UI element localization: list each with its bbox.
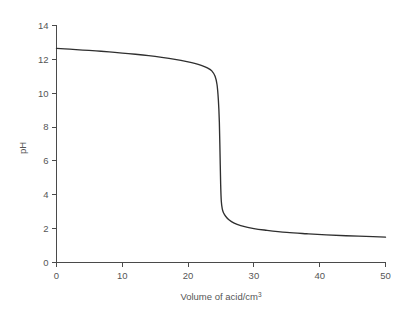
y-tick-label: 2: [43, 223, 48, 234]
x-tick-label: 30: [249, 270, 260, 281]
chart-background: [0, 0, 406, 315]
y-tick-label: 4: [43, 189, 48, 200]
x-tick-label: 0: [54, 270, 59, 281]
y-axis-title: pH: [17, 142, 28, 154]
y-tick-label: 10: [38, 88, 49, 99]
y-tick-label: 12: [38, 54, 49, 65]
x-tick-label: 10: [117, 270, 128, 281]
x-axis-title-superscript: 3: [258, 291, 262, 298]
y-tick-label: 14: [38, 20, 49, 31]
x-tick-label: 20: [183, 270, 194, 281]
x-axis-title: Volume of acid/cm3: [180, 291, 262, 303]
ph-titration-chart: 01020304050 02468101214 Volume of acid/c…: [0, 0, 406, 315]
x-tick-label: 40: [314, 270, 325, 281]
x-axis-title-base: Volume of acid/cm: [180, 291, 258, 302]
chart-svg: 01020304050 02468101214 Volume of acid/c…: [0, 0, 406, 315]
y-tick-label: 6: [43, 155, 48, 166]
y-tick-label: 0: [43, 257, 48, 268]
x-tick-label: 50: [380, 270, 391, 281]
y-tick-label: 8: [43, 121, 48, 132]
